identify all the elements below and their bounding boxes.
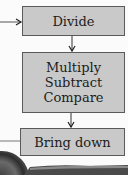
multiply-label: Multiply <box>46 60 101 75</box>
divide-label: Divide <box>52 14 94 29</box>
arrow-down-icon <box>68 113 74 127</box>
photo-fragment <box>0 148 128 175</box>
divide-step-box: Divide <box>22 6 125 36</box>
incoming-arrow-icon <box>0 19 21 25</box>
multiply-subtract-compare-box: Multiply Subtract Compare <box>22 52 125 113</box>
compare-label: Compare <box>43 90 103 105</box>
subtract-label: Subtract <box>45 75 102 90</box>
arrow-down-icon <box>69 36 75 51</box>
